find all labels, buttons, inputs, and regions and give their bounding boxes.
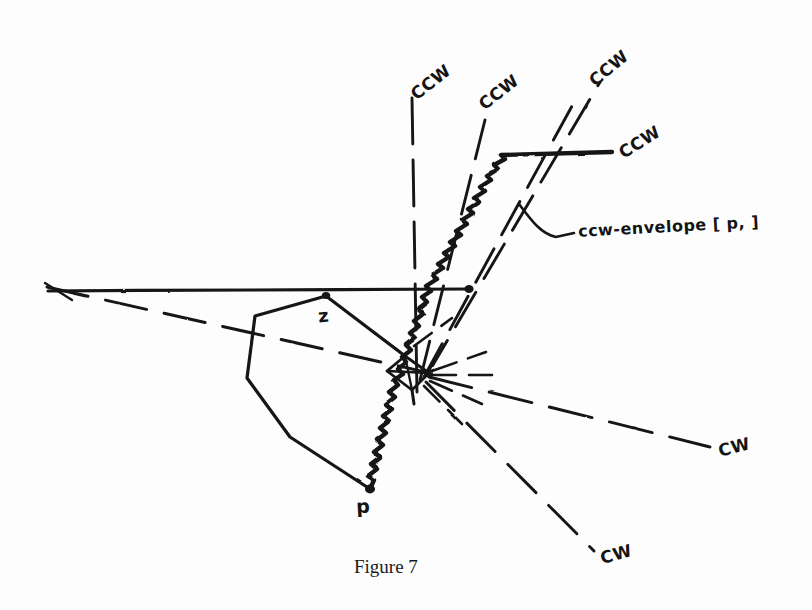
label-vertex-p: p bbox=[355, 495, 370, 518]
ccw-envelope-sawtooth bbox=[368, 152, 612, 489]
convergence-blob bbox=[425, 370, 433, 377]
figure-container: CCW CCW CCW CCW CW CW ccw-envelope [ p, … bbox=[0, 0, 812, 610]
vertex-marker-z bbox=[322, 292, 330, 299]
figure-caption: Figure 7 bbox=[354, 556, 418, 578]
baseline-crossing-blob bbox=[464, 285, 473, 293]
polygon-left-chain bbox=[247, 296, 370, 489]
cw-ray-2 bbox=[426, 382, 594, 551]
ccw-ray-1 bbox=[412, 98, 417, 392]
figure-drawing bbox=[0, 0, 812, 610]
envelope-leader bbox=[519, 204, 574, 237]
label-vertex-z: z bbox=[317, 304, 330, 326]
ccw-ray-4 bbox=[427, 82, 600, 375]
vertex-marker-p bbox=[365, 485, 375, 494]
cw-ray-1 bbox=[429, 377, 710, 447]
quad-stub bbox=[412, 390, 414, 404]
convergence-spoke-d bbox=[424, 386, 462, 424]
convergence-spoke-f bbox=[372, 331, 400, 352]
horizontal-baseline bbox=[48, 289, 470, 291]
